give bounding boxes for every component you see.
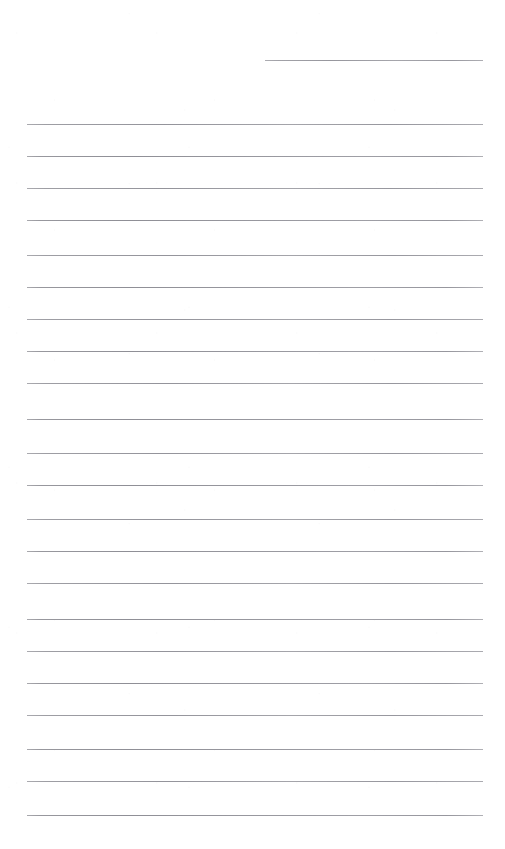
ruled-line bbox=[27, 583, 483, 584]
ruled-line bbox=[27, 255, 483, 256]
document-page bbox=[0, 0, 505, 849]
ruled-line bbox=[27, 220, 483, 221]
ruled-line bbox=[27, 383, 483, 384]
ruled-line bbox=[27, 815, 483, 816]
ruled-line bbox=[27, 351, 483, 352]
ruled-line bbox=[27, 453, 483, 454]
ruled-line bbox=[27, 485, 483, 486]
ruled-line bbox=[27, 156, 483, 157]
ruled-line bbox=[27, 319, 483, 320]
ruled-line bbox=[27, 749, 483, 750]
ruled-line bbox=[27, 619, 483, 620]
ruled-line bbox=[27, 683, 483, 684]
ruled-line bbox=[27, 551, 483, 552]
ruled-line bbox=[27, 287, 483, 288]
ruled-line bbox=[265, 60, 483, 61]
ruled-line bbox=[27, 715, 483, 716]
ruled-line bbox=[27, 188, 483, 189]
paper-grain-texture bbox=[0, 0, 505, 849]
ruled-line bbox=[27, 124, 483, 125]
ruled-line bbox=[27, 651, 483, 652]
ruled-line bbox=[27, 519, 483, 520]
ruled-line bbox=[27, 781, 483, 782]
ruled-line bbox=[27, 419, 483, 420]
